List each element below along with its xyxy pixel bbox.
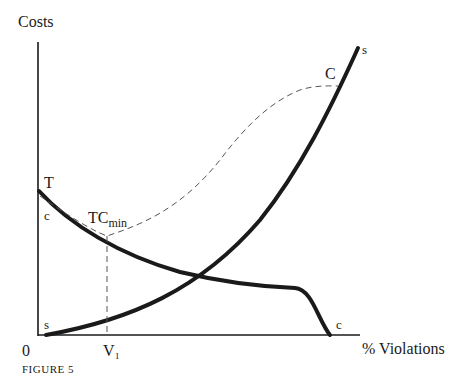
c-curve xyxy=(39,191,330,335)
x-tick-v1: V₁ xyxy=(103,343,120,359)
label-C: C xyxy=(325,66,336,82)
x-axis-label: % Violations xyxy=(362,341,445,357)
total-cost-curve xyxy=(40,86,338,236)
cost-diagram xyxy=(0,0,469,386)
tc-min-label: TCmin xyxy=(88,210,127,229)
label-c-end: c xyxy=(336,318,342,331)
s-curve xyxy=(46,48,358,335)
label-c-start: c xyxy=(44,209,50,222)
tc-min-sub: min xyxy=(108,216,127,230)
figure-caption: FIGURE 5 xyxy=(22,364,74,375)
y-axis-label: Costs xyxy=(18,14,54,30)
label-T: T xyxy=(44,175,54,191)
origin-label: 0 xyxy=(22,343,30,359)
tc-min-main: TC xyxy=(88,209,108,226)
label-s-end: s xyxy=(362,43,367,56)
label-s-start: s xyxy=(44,318,49,331)
